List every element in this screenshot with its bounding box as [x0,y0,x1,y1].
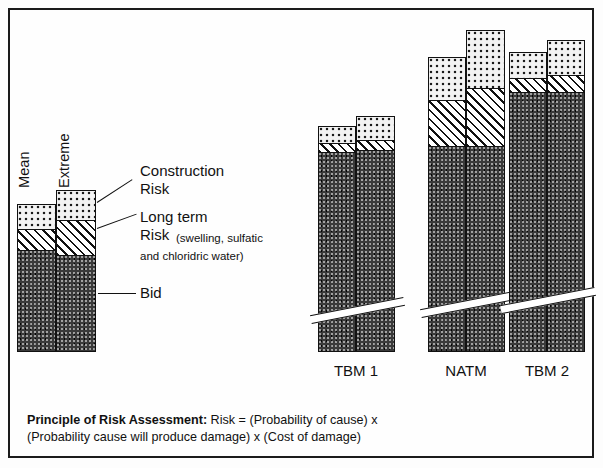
segment-long-term-risk [57,220,95,255]
chart-plot-area: Mean Extreme TBM 1 [0,0,603,468]
leader-line-construction-risk [97,179,133,203]
legend-label-long-term-risk-detail1: (swelling, sulfatic [176,230,263,246]
figure-root: Mean Extreme TBM 1 [0,0,603,468]
segment-long-term-risk [510,78,546,92]
legend-label-long-term-risk-detail2: and chloridric water) [140,248,244,264]
segment-construction-risk [57,191,95,220]
caption-line-1: Principle of Risk Assessment: Risk = (Pr… [27,412,572,429]
segment-construction-risk [467,31,504,88]
bar-reference-mean [17,204,56,352]
leader-line-long-term-risk [97,214,137,229]
caption-line-1-rest: Risk = (Probability of cause) x [207,413,377,427]
legend-label-construction-risk-line2: Risk [140,180,169,197]
legend-label-long-term-risk-line2: Risk [140,226,169,243]
segment-bid [357,150,394,351]
leader-line-bid [98,293,136,294]
caption-line-2: (Probability cause will produce damage) … [27,429,572,446]
segment-long-term-risk [467,88,504,146]
bar-reference-extreme [56,190,96,352]
segment-bid [429,146,465,351]
segment-construction-risk [429,58,465,100]
legend-label-bid: Bid [140,284,162,301]
segment-construction-risk [18,205,55,229]
category-label-tbm2: TBM 2 [497,362,597,379]
legend-label-long-term-risk-word-risk: Risk [140,226,169,243]
segment-bid [548,92,584,351]
category-label-tbm1: TBM 1 [306,362,406,379]
axis-label-extreme: Extreme [56,133,72,188]
segment-construction-risk [319,127,355,143]
segment-long-term-risk [18,229,55,250]
segment-long-term-risk [548,75,584,92]
caption-block: Principle of Risk Assessment: Risk = (Pr… [27,412,572,446]
segment-bid [57,255,95,351]
bar-tbm1-extreme [356,116,395,352]
bar-tbm2-extreme [547,40,585,352]
segment-bid [467,146,504,351]
segment-construction-risk [357,117,394,140]
segment-construction-risk [510,53,546,78]
segment-construction-risk [548,41,584,75]
legend-label-long-term-risk-line1: Long term [140,208,208,225]
caption-bold-lead: Principle of Risk Assessment: [27,413,207,427]
segment-long-term-risk [357,140,394,150]
axis-label-mean: Mean [16,151,32,188]
segment-bid [18,250,55,351]
segment-long-term-risk [429,100,465,146]
segment-long-term-risk [319,143,355,152]
segment-bid [510,92,546,351]
legend-label-construction-risk-line1: Construction [140,162,224,179]
